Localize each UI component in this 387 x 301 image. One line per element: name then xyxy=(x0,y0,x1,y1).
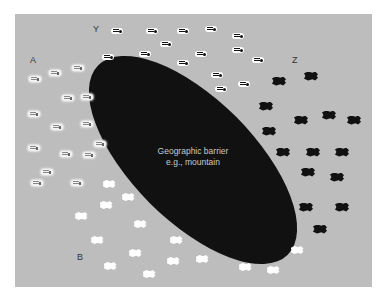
insect-a-icon xyxy=(60,151,72,157)
insect-b-icon xyxy=(103,180,116,188)
insect-z-icon xyxy=(272,77,286,86)
insect-b-icon xyxy=(239,263,252,271)
insect-a-icon xyxy=(28,111,40,117)
population-label-y: Y xyxy=(93,24,99,34)
insect-z-icon xyxy=(335,148,349,157)
barrier-label: Geographic barrier e.g., mountain xyxy=(143,146,243,167)
insect-z-icon xyxy=(313,225,327,234)
insect-b-icon xyxy=(75,212,88,220)
insect-y-icon xyxy=(195,51,207,57)
insect-a-icon xyxy=(81,121,93,127)
insect-b-icon xyxy=(196,255,209,263)
insect-z-icon xyxy=(330,173,344,182)
insect-z-icon xyxy=(294,116,308,125)
insect-b-icon xyxy=(167,257,180,265)
barrier-label-line1: Geographic barrier xyxy=(143,146,243,157)
insect-y-icon xyxy=(160,41,172,47)
insect-z-icon xyxy=(304,72,318,81)
insect-y-icon xyxy=(205,26,217,32)
insect-a-icon xyxy=(71,180,83,186)
insect-b-icon xyxy=(122,193,135,201)
insect-a-icon xyxy=(29,76,41,82)
insect-b-icon xyxy=(91,236,104,244)
insect-y-icon xyxy=(215,86,227,92)
insect-y-icon xyxy=(232,33,244,39)
insect-z-icon xyxy=(347,116,361,125)
insect-z-icon xyxy=(301,168,315,177)
insect-b-icon xyxy=(170,236,183,244)
insect-z-icon xyxy=(262,127,276,136)
insect-y-icon xyxy=(111,28,123,34)
insect-y-icon xyxy=(252,57,264,63)
insect-y-icon xyxy=(211,72,223,78)
insect-y-icon xyxy=(102,54,114,60)
population-label-a: A xyxy=(30,55,36,65)
barrier-label-line2: e.g., mountain xyxy=(143,157,243,168)
insect-a-icon xyxy=(28,145,40,151)
insect-a-icon xyxy=(81,94,93,100)
insect-b-icon xyxy=(291,246,304,254)
insect-a-icon xyxy=(49,70,61,76)
insect-b-icon xyxy=(104,262,117,270)
insect-z-icon xyxy=(259,102,273,111)
population-label-z: Z xyxy=(292,55,298,65)
insect-a-icon xyxy=(72,65,84,71)
insect-a-icon xyxy=(62,95,74,101)
insect-y-icon xyxy=(238,81,250,87)
insect-a-icon xyxy=(31,180,43,186)
insect-z-icon xyxy=(276,148,290,157)
insect-z-icon xyxy=(322,111,336,120)
insect-a-icon xyxy=(41,169,53,175)
insect-z-icon xyxy=(335,203,349,212)
insect-b-icon xyxy=(143,270,156,278)
insect-y-icon xyxy=(177,60,189,66)
insect-a-icon xyxy=(83,152,95,158)
insect-y-icon xyxy=(146,28,158,34)
insect-a-icon xyxy=(51,124,63,130)
insect-a-icon xyxy=(94,141,106,147)
insect-y-icon xyxy=(139,51,151,57)
insect-z-icon xyxy=(299,203,313,212)
insect-b-icon xyxy=(267,266,280,274)
insect-b-icon xyxy=(100,201,113,209)
insect-z-icon xyxy=(306,148,320,157)
insect-b-icon xyxy=(129,249,142,257)
insect-y-icon xyxy=(177,28,189,34)
insect-b-icon xyxy=(134,220,147,228)
population-label-b: B xyxy=(77,252,83,262)
insect-y-icon xyxy=(232,47,244,53)
